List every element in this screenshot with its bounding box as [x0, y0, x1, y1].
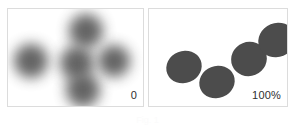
figure-container: 0 100% Fig. 1: [0, 0, 295, 125]
caption-fragment: Fig. 1: [0, 116, 295, 125]
blob-top: [69, 14, 103, 48]
blur-level-label-right: 100%: [252, 90, 281, 101]
blob-bottom: [66, 73, 100, 107]
sharp-panel: 100%: [148, 8, 288, 107]
blob-right: [98, 45, 130, 77]
blurred-panel: 0: [7, 8, 144, 107]
blob-left: [14, 44, 48, 78]
blur-level-label-left: 0: [131, 90, 137, 101]
